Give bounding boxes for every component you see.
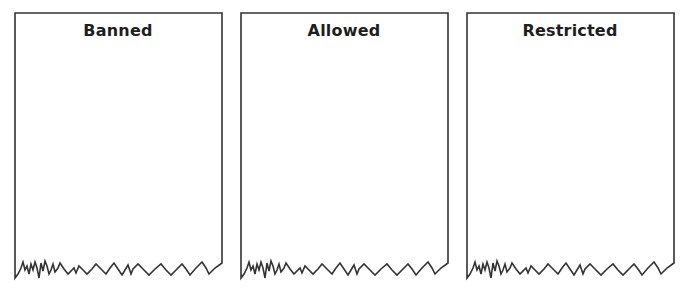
torn-paper-outline bbox=[14, 12, 222, 284]
panel-title: Allowed bbox=[240, 21, 448, 40]
panel-banned: Banned bbox=[14, 12, 222, 284]
panel-restricted: Restricted bbox=[466, 12, 674, 284]
panel-allowed: Allowed bbox=[240, 12, 448, 284]
torn-paper-outline bbox=[466, 12, 674, 284]
panel-title: Banned bbox=[14, 21, 222, 40]
torn-paper-outline bbox=[240, 12, 448, 284]
panel-title: Restricted bbox=[466, 21, 674, 40]
